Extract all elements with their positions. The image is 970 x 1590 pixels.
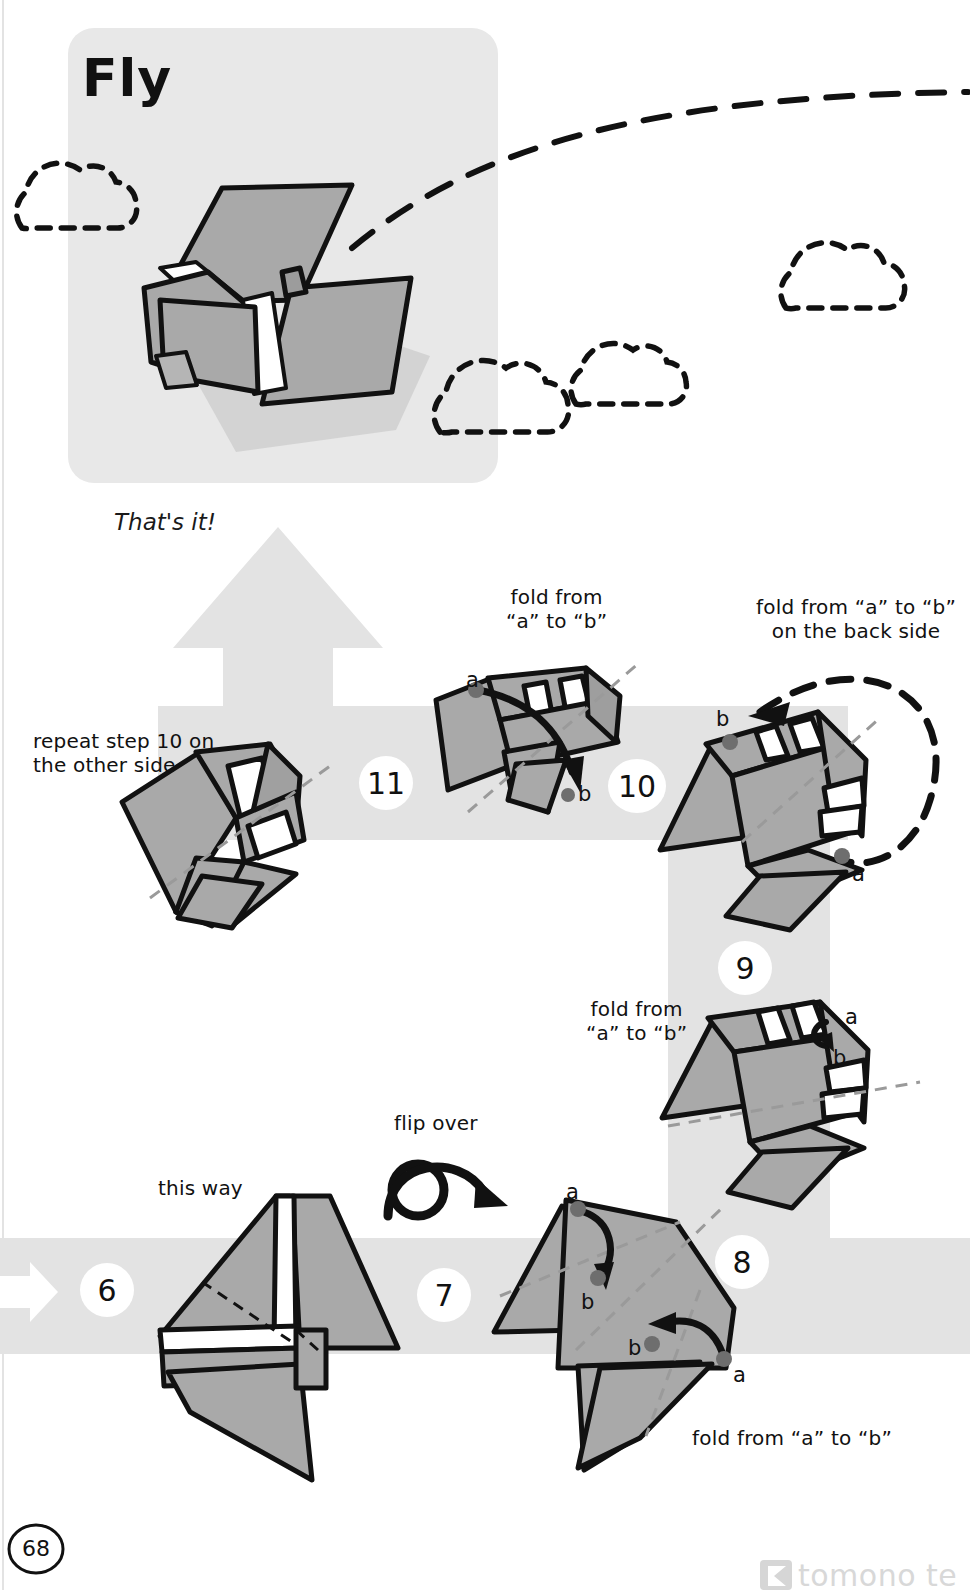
footer-layer <box>0 0 970 1590</box>
page-number: 68 <box>22 1536 50 1562</box>
origami-instruction-page: Fly repeat step 10 on the other side Tha… <box>0 0 970 1590</box>
watermark-text: tomono te <box>798 1558 957 1590</box>
